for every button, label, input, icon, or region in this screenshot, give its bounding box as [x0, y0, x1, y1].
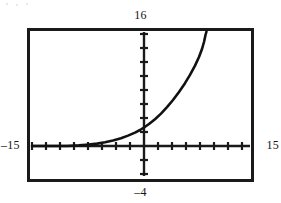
scan-artifact	[26, 3, 28, 5]
x-max-label: 15	[267, 139, 279, 151]
graphing-calculator-screenshot: 16 –15 15 –4	[0, 0, 281, 203]
plot-svg	[27, 28, 254, 182]
x-min-label: –15	[1, 139, 20, 151]
scan-artifact	[6, 3, 8, 5]
y-min-label: –4	[0, 186, 281, 198]
y-max-label: 16	[0, 9, 281, 21]
scan-artifact	[16, 4, 18, 6]
plot-area	[27, 28, 254, 182]
